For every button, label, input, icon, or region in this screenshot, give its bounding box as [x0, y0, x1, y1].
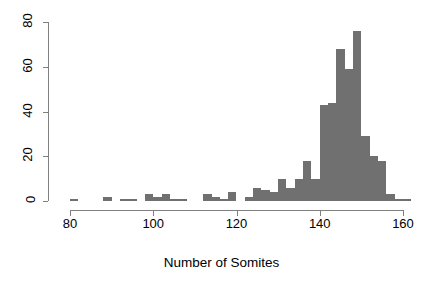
histogram-bar: [336, 49, 344, 201]
y-axis-tick: [43, 112, 48, 113]
histogram-bar: [378, 161, 386, 201]
histogram-bar: [228, 192, 236, 201]
y-axis-tick-label: 80: [0, 13, 34, 28]
bars-layer: [0, 0, 443, 201]
histogram-bar: [120, 199, 128, 201]
histogram-bar: [128, 199, 136, 201]
y-axis-tick-label: 20: [0, 147, 34, 162]
y-axis-line: [48, 22, 49, 201]
histogram-bar: [103, 197, 111, 201]
histogram-bar: [270, 192, 278, 201]
plot-area: 020406080 80100120140160: [0, 0, 443, 288]
x-axis-tick-label: 120: [217, 216, 257, 231]
histogram-bar: [162, 194, 170, 201]
y-axis-tick: [43, 201, 48, 202]
histogram-bar: [403, 199, 411, 201]
histogram-bar: [153, 197, 161, 201]
y-axis-tick: [43, 22, 48, 23]
histogram-bar: [370, 156, 378, 201]
histogram-bar: [203, 194, 211, 201]
x-axis-tick-label: 140: [300, 216, 340, 231]
histogram-bar: [245, 197, 253, 201]
histogram-bar: [286, 188, 294, 201]
histogram-bar: [178, 199, 186, 201]
histogram-bar: [345, 69, 353, 201]
histogram-bar: [320, 105, 328, 201]
histogram-bar: [395, 199, 403, 201]
histogram-bar: [261, 190, 269, 201]
histogram-bar: [212, 197, 220, 201]
histogram-bar: [145, 194, 153, 201]
x-axis-tick-label: 160: [383, 216, 423, 231]
histogram-bar: [303, 161, 311, 201]
histogram-bar: [278, 179, 286, 201]
histogram-bar: [361, 136, 369, 201]
histogram-bar: [386, 194, 394, 201]
y-axis-tick-label: 0: [0, 192, 34, 207]
histogram-bar: [70, 199, 78, 201]
histogram-bar: [253, 188, 261, 201]
y-axis-tick-label: 60: [0, 58, 34, 73]
y-axis-tick: [43, 156, 48, 157]
y-axis-tick-label: 40: [0, 103, 34, 118]
histogram-bar: [170, 199, 178, 201]
histogram-bar: [295, 179, 303, 201]
histogram-bar: [311, 179, 319, 201]
x-axis-title: Number of Somites: [0, 255, 443, 270]
histogram-bar: [220, 199, 228, 201]
histogram-bar: [353, 31, 361, 201]
histogram-bar: [328, 103, 336, 201]
x-axis-tick-label: 80: [50, 216, 90, 231]
x-axis-tick-label: 100: [133, 216, 173, 231]
y-axis-tick: [43, 67, 48, 68]
histogram-figure: 020406080 80100120140160 Number of Somit…: [0, 0, 443, 288]
